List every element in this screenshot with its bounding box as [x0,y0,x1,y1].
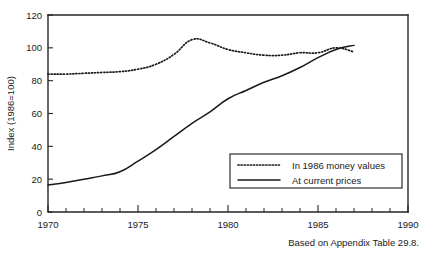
y-axis-tick-label: 80 [31,75,42,86]
axes-layer: 02040608010012019701975198019851990Index… [5,10,419,231]
legend-label: In 1986 money values [292,160,385,171]
y-axis-tick-label: 40 [31,141,42,152]
chart-figure: 02040608010012019701975198019851990Index… [0,0,426,256]
x-axis-tick-label: 1970 [37,219,58,230]
line-chart-plot: 02040608010012019701975198019851990Index… [0,0,426,256]
series-line-dotted [48,39,354,74]
chart-source-caption: Based on Appendix Table 29.8. [288,237,419,248]
x-axis-tick-label: 1990 [397,219,418,230]
legend-layer: In 1986 money valuesAt current prices [230,154,402,188]
x-axis-tick-label: 1980 [217,219,238,230]
y-axis-tick-label: 20 [31,174,42,185]
y-axis-tick-label: 120 [26,10,42,21]
x-axis-tick-label: 1975 [127,219,148,230]
y-axis-tick-label: 100 [26,42,42,53]
y-axis-tick-label: 60 [31,108,42,119]
y-axis-title: Index (1986=100) [5,76,16,151]
y-axis-tick-label: 0 [37,207,42,218]
x-axis-tick-label: 1985 [307,219,328,230]
legend-label: At current prices [292,175,361,186]
